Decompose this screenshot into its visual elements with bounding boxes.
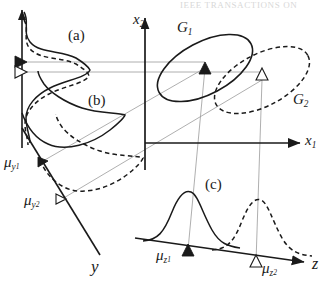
mean-label-mu-y2-sub2: 2: [36, 200, 40, 209]
axis-label-x2: x2: [133, 12, 144, 30]
marker-open-triangle-g2: [256, 68, 268, 80]
figure-canvas: IEEE TRANSACTIONS ON: [0, 0, 333, 285]
axis-label-x1-base: x: [305, 132, 312, 148]
mean-label-mu-y1-base: μ: [4, 154, 12, 170]
mean-label-mu-y2-base: μ: [24, 192, 32, 208]
mean-label-mu-y2: μy2: [24, 193, 39, 211]
axis-label-z: z: [312, 256, 318, 272]
marker-filled-triangle-x2: [15, 56, 27, 68]
cluster-label-g1: G1: [177, 20, 193, 38]
panel-label-a: (a): [68, 28, 85, 43]
panel-c-curves: [143, 191, 312, 256]
mean-label-mu-z1-sub2: 1: [167, 255, 171, 264]
marker-filled-triangle-g1: [199, 62, 211, 74]
projection-guide-lines: [22, 62, 262, 262]
marker-open-triangle-x2: [15, 66, 27, 78]
mean-label-mu-y1: μy1: [4, 155, 19, 173]
mean-label-mu-z1: μz1: [156, 248, 171, 266]
axis-label-y: y: [91, 258, 99, 275]
mean-label-mu-z2: μz2: [262, 261, 277, 279]
axis-label-x2-sub: 2: [140, 19, 145, 29]
mean-label-mu-z1-base: μ: [156, 247, 164, 263]
cluster-label-g2-base: G: [293, 91, 304, 107]
cluster-label-g1-base: G: [177, 19, 188, 35]
axis-label-x2-base: x: [133, 11, 140, 27]
axis-label-x1-sub: 1: [312, 140, 317, 150]
marker-filled-triangle-muy1: [38, 157, 48, 167]
axis-label-x1: x1: [305, 133, 316, 151]
mean-label-mu-z2-sub2: 2: [273, 268, 277, 277]
curve-c-g1-solid: [143, 191, 240, 248]
curve-c-g2-dashed: [212, 199, 312, 256]
mean-label-mu-z2-base: μ: [262, 260, 270, 276]
cluster-label-g2-sub: 2: [304, 99, 309, 109]
figure-vector: [0, 0, 333, 285]
panel-label-c: (c): [205, 177, 222, 192]
curve-b-g2-dashed: [40, 114, 143, 191]
panel-label-b: (b): [88, 93, 106, 108]
marker-open-triangle-muz2: [250, 255, 262, 267]
panel-b-curves: [22, 71, 143, 191]
cluster-label-g2: G2: [293, 92, 309, 110]
mean-label-mu-y1-sub2: 1: [16, 162, 20, 171]
cluster-label-g1-sub: 1: [188, 27, 193, 37]
cartesian-axes: [145, 18, 300, 170]
curve-b-g1-solid: [22, 71, 125, 147]
marker-open-triangle-muy2: [56, 194, 66, 204]
